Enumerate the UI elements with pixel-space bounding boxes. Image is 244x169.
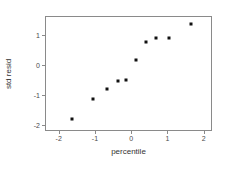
x-axis-tick [59,130,60,134]
x-axis-tick-label: 0 [129,135,133,142]
x-axis-tick-label: 1 [166,135,170,142]
x-axis-title: percentile [45,148,212,156]
y-axis-tick [42,35,46,36]
y-axis-tick [42,125,46,126]
data-point [154,37,157,40]
data-point [125,79,128,82]
y-axis-tick-label: -1 [34,92,40,99]
y-axis-tick [42,95,46,96]
x-axis-tick-label: -1 [92,135,98,142]
plot-area [46,17,211,130]
x-axis-tick-label: -2 [56,135,62,142]
plot-frame: 10-1-2-2-1012 [45,16,212,131]
y-axis-tick-label: -2 [34,122,40,129]
data-point [116,79,119,82]
data-point [91,97,94,100]
y-axis-title: std resid [4,16,14,131]
chart-screenshot: std resid 10-1-2-2-1012 percentile [0,0,244,169]
x-axis-tick-label: 2 [202,135,206,142]
data-point [105,87,108,90]
data-point [167,36,170,39]
data-point [190,22,193,25]
y-axis-tick [42,65,46,66]
x-axis-tick [131,130,132,134]
x-axis-tick [95,130,96,134]
data-point [134,59,137,62]
data-point [144,40,147,43]
y-axis-tick-label: 1 [36,32,40,39]
x-axis-tick [167,130,168,134]
x-axis-tick [204,130,205,134]
data-point [71,118,74,121]
y-axis-tick-label: 0 [36,62,40,69]
y-axis-title-text: std resid [5,58,13,88]
